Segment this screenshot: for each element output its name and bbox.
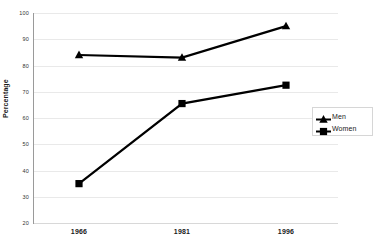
gridline-50 xyxy=(33,144,338,145)
gridline-30 xyxy=(33,197,338,198)
gridline-40 xyxy=(33,171,338,172)
gridline-20 xyxy=(33,223,338,224)
y-tick-label-80: 80 xyxy=(22,63,29,69)
gridline-80 xyxy=(33,66,338,67)
y-tick-label-30: 30 xyxy=(22,194,29,200)
gridline-70 xyxy=(33,92,338,93)
y-axis-tick-labels: 1009080706050403020 xyxy=(0,13,29,223)
y-tick-label-50: 50 xyxy=(22,141,29,147)
gridline-100 xyxy=(33,13,338,14)
legend-marker-triangle-icon xyxy=(315,111,332,122)
y-tick-label-40: 40 xyxy=(22,168,29,174)
y-tick-label-70: 70 xyxy=(22,89,29,95)
y-tick-label-100: 100 xyxy=(19,10,29,16)
y-tick-label-60: 60 xyxy=(22,115,29,121)
chart-screenshot: 1009080706050403020 196619811996 Percent… xyxy=(0,0,380,244)
plot-area xyxy=(33,13,338,223)
y-tick-label-90: 90 xyxy=(22,36,29,42)
y-axis-title: Percentage xyxy=(2,79,9,118)
gridline-60 xyxy=(33,118,338,119)
x-tick-label-1981: 1981 xyxy=(174,228,190,235)
legend-label-women: Women xyxy=(332,125,357,132)
gridline-90 xyxy=(33,39,338,40)
legend-entry-men: Men xyxy=(315,110,372,122)
chart-legend: MenWomen xyxy=(312,107,373,136)
y-axis-line xyxy=(33,13,34,224)
x-tick-label-1996: 1996 xyxy=(278,228,294,235)
x-tick-label-1966: 1966 xyxy=(71,228,87,235)
y-tick-label-20: 20 xyxy=(22,220,29,226)
legend-marker-square-icon xyxy=(315,123,332,134)
legend-label-men: Men xyxy=(332,113,346,120)
x-axis-tick-labels: 196619811996 xyxy=(33,228,338,240)
legend-entry-women: Women xyxy=(315,122,372,134)
